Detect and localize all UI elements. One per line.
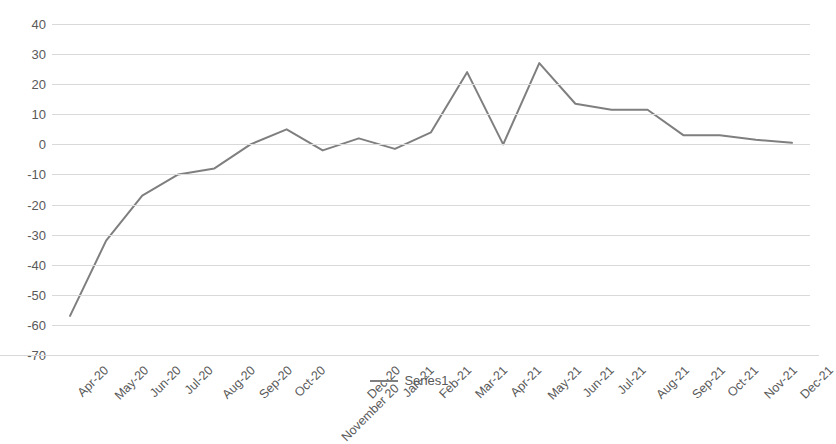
gridline [52, 295, 810, 296]
y-axis-tick-label: 0 [2, 138, 46, 151]
gridline [52, 24, 810, 25]
y-axis: 403020100-10-20-30-40-50-60-70 [0, 24, 46, 355]
y-axis-tick-label: -20 [2, 198, 46, 211]
chart-legend: Series1 [0, 374, 819, 387]
gridline [52, 325, 810, 326]
y-axis-tick-label: -60 [2, 318, 46, 331]
gridline [52, 235, 810, 236]
y-axis-tick-label: 10 [2, 108, 46, 121]
gridline [52, 144, 810, 145]
legend-line-marker [370, 380, 398, 382]
plot-area [52, 24, 810, 355]
y-axis-tick-label: 30 [2, 48, 46, 61]
y-axis-tick-label: -10 [2, 168, 46, 181]
gridline [52, 54, 810, 55]
gridline [52, 114, 810, 115]
gridline [52, 265, 810, 266]
gridline [52, 174, 810, 175]
y-axis-tick-label: -30 [2, 228, 46, 241]
y-axis-tick-label: -50 [2, 288, 46, 301]
legend-entry-label: Series1 [404, 374, 448, 387]
gridline [52, 205, 810, 206]
x-axis-line [0, 355, 819, 356]
series-line-group [52, 24, 810, 355]
y-axis-tick-label: -40 [2, 258, 46, 271]
gridline [52, 84, 810, 85]
series-line [70, 63, 792, 316]
y-axis-tick-label: 20 [2, 78, 46, 91]
y-axis-tick-label: 40 [2, 18, 46, 31]
